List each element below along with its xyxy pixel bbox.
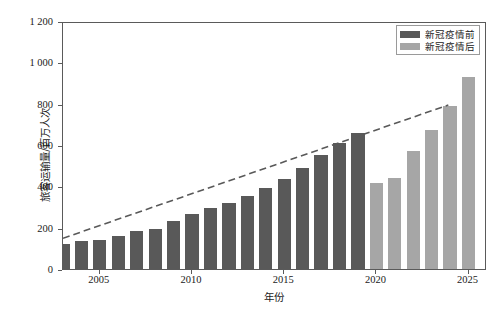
- bar: [278, 179, 291, 269]
- plot-frame: [62, 22, 486, 270]
- bar: [259, 188, 272, 269]
- bar: [407, 151, 420, 269]
- y-tick-label: 0: [0, 264, 53, 275]
- legend-swatch-pre-covid: [400, 31, 420, 38]
- passenger-volume-bar-chart: 旅客运输量/百万人次 02004006008001 0001 200 20052…: [0, 0, 501, 310]
- bar: [351, 133, 364, 269]
- y-tick-label: 1 000: [0, 57, 53, 68]
- trend-line: [63, 23, 485, 269]
- legend-label-pre-covid: 新冠疫情前: [425, 29, 475, 40]
- x-tick-label: 2015: [273, 274, 294, 286]
- bar: [185, 214, 198, 269]
- bar: [167, 221, 180, 269]
- plot-area: [63, 23, 485, 269]
- bar: [93, 240, 106, 269]
- bar: [425, 130, 438, 269]
- bar: [130, 231, 143, 269]
- legend-label-post-covid: 新冠疫情后: [425, 41, 475, 52]
- bar: [370, 183, 383, 269]
- bar: [149, 229, 162, 269]
- bar: [314, 155, 327, 269]
- y-tick-label: 600: [0, 140, 53, 151]
- bar: [241, 196, 254, 269]
- y-tick-label: 200: [0, 223, 53, 234]
- y-tick-label: 800: [0, 99, 53, 110]
- bar: [75, 241, 88, 269]
- bar: [388, 178, 401, 269]
- bar: [462, 77, 475, 269]
- y-tick-label: 400: [0, 181, 53, 192]
- x-tick-label: 2025: [457, 274, 478, 286]
- x-axis-title: 年份: [264, 289, 284, 304]
- legend-swatch-post-covid: [400, 43, 420, 50]
- bar: [112, 236, 125, 269]
- bar: [222, 203, 235, 269]
- legend-item-post-covid: 新冠疫情后: [400, 40, 475, 52]
- bar: [63, 244, 70, 269]
- bar: [296, 168, 309, 269]
- y-tick-mark: [58, 270, 62, 271]
- bar: [333, 143, 346, 269]
- x-tick-label: 2005: [88, 274, 109, 286]
- x-tick-label: 2010: [181, 274, 202, 286]
- legend-item-pre-covid: 新冠疫情前: [400, 28, 475, 40]
- bar: [204, 208, 217, 269]
- bar: [443, 106, 456, 269]
- x-tick-label: 2020: [365, 274, 386, 286]
- chart-legend: 新冠疫情前 新冠疫情后: [396, 25, 480, 55]
- y-tick-label: 1 200: [0, 16, 53, 27]
